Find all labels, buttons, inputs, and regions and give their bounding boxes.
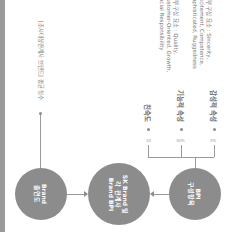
component-pct: 30% (176, 138, 185, 143)
component-label: 기능적 속성 (176, 86, 186, 126)
component-desc: 세부 구성 요소 : Sincerity, Excitement, Compet… (191, 0, 212, 85)
arrow-right-icon (84, 191, 88, 197)
component-label: 감성적 속성 (209, 86, 219, 126)
bracket-branch (214, 145, 215, 157)
node-label: BPI 구성항목 (188, 182, 202, 206)
bracket-line (148, 157, 214, 158)
node-label: SK Brand 및 각 관계사 Brand BPI (108, 174, 129, 213)
connector-line (40, 115, 41, 168)
component-label: 친숙도 (143, 98, 153, 128)
connector-line (195, 157, 196, 168)
bullet-dot (213, 128, 216, 131)
component-desc: 세부 구성 요소 : Quality, Customer-Oriented, G… (158, 0, 179, 85)
bullet-dot (39, 112, 42, 115)
arrow-left-icon (150, 191, 154, 197)
node-sk-brand-bpi: SK Brand 및 각 관계사 Brand BPI (88, 163, 150, 225)
top-note: [조사대상관계사 브랜드] 평균 점수 (37, 11, 44, 111)
bullet-dot (147, 128, 150, 131)
node-brand-awareness: Brand 출연도 (15, 168, 67, 220)
component-pct: 10 (146, 138, 151, 143)
bracket-branch (148, 145, 149, 157)
side-bar (0, 0, 5, 232)
connector-line (154, 194, 169, 195)
component-pct: 3% (210, 138, 216, 143)
connector-line (67, 194, 84, 195)
bullet-dot (180, 128, 183, 131)
bracket-branch (181, 145, 182, 157)
node-bpi-components: BPI 구성항목 (169, 168, 221, 220)
node-label: Brand 출연도 (34, 184, 48, 204)
